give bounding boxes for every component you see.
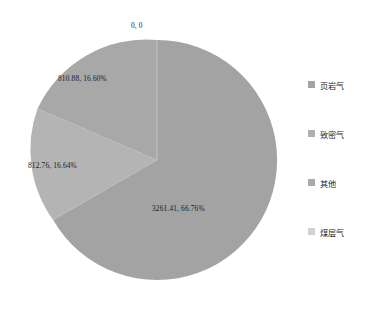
legend-item-other[interactable]: 其他 <box>308 175 372 190</box>
legend-label: 其他 <box>320 177 336 189</box>
legend-label: 煤层气 <box>320 226 345 238</box>
legend-swatch-icon <box>308 179 315 186</box>
chart-legend: 页岩气 致密气 其他 煤层气 <box>308 77 372 273</box>
pie-label-other: 810.88, 16.60% <box>58 74 107 83</box>
legend-item-tight-gas[interactable]: 致密气 <box>308 126 372 141</box>
pie-label-coalbed-methane: 0, 0 <box>131 21 143 30</box>
legend-swatch-icon <box>308 130 315 137</box>
legend-swatch-icon <box>308 81 315 88</box>
legend-item-shale-gas[interactable]: 页岩气 <box>308 77 372 92</box>
pie-label-shale-gas: 3261.41, 66.76% <box>152 204 205 213</box>
legend-swatch-icon <box>308 228 315 235</box>
legend-item-coalbed-methane[interactable]: 煤层气 <box>308 224 372 239</box>
legend-label: 页岩气 <box>320 79 345 91</box>
pie-chart-container: 0, 0 810.88, 16.60% 812.76, 16.64% 3261.… <box>0 0 372 312</box>
pie-label-tight-gas: 812.76, 16.64% <box>28 161 77 170</box>
legend-label: 致密气 <box>320 128 345 140</box>
